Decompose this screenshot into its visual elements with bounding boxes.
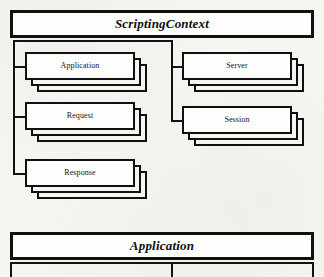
node-response-front[interactable]: Response [25,159,135,187]
node-server[interactable]: Server [182,52,304,92]
connector-right-trunk [171,40,173,122]
node-session-label: Session [224,116,249,124]
diagram-canvas: ScriptingContext Application Reque [0,0,324,277]
application-title-label: Application [13,235,311,257]
application-compartment-right-edge [312,262,314,277]
node-server-label: Server [226,62,247,70]
connector-left-trunk [13,40,15,175]
connector-spine-horizontal [13,40,173,42]
node-response[interactable]: Response [25,159,147,199]
node-server-front[interactable]: Server [182,52,292,80]
application-title-box: Application [10,232,314,260]
scriptingcontext-title-label: ScriptingContext [13,13,311,35]
application-compartment-divider [171,262,173,277]
node-request-front[interactable]: Request [25,102,135,130]
node-application-front[interactable]: Application [25,52,135,80]
node-application[interactable]: Application [25,52,147,92]
diagram-layer: ScriptingContext Application Reque [0,0,324,277]
node-application-label: Application [61,62,100,70]
application-compartment-left-edge [10,262,12,277]
node-session-front[interactable]: Session [182,106,292,134]
scriptingcontext-title-box: ScriptingContext [10,10,314,38]
node-response-label: Response [64,169,95,177]
node-request-label: Request [67,112,93,120]
application-compartment-rule [10,262,314,264]
node-session[interactable]: Session [182,106,304,146]
node-request[interactable]: Request [25,102,147,142]
